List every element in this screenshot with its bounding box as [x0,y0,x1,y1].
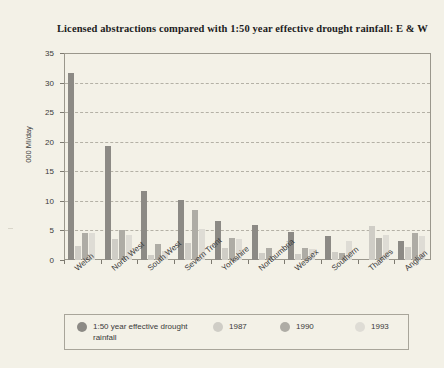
chart-legend: 1:50 year effective drought rainfall1987… [64,314,409,350]
x-axis-labels: WelshNorth WestSouth WestSevern TrentYor… [0,0,444,368]
x-axis-label: Thames [367,247,395,273]
legend-label: 1987 [229,322,247,333]
legend-item[interactable]: 1993 [355,322,405,333]
x-axis-label: Anglian [403,248,429,272]
x-axis-label: Wessex [293,247,320,272]
legend-item[interactable]: 1:50 year effective drought rainfall [77,322,197,343]
x-axis-label: Yorkshire [220,244,251,272]
legend-swatch-icon [213,322,223,332]
x-axis-label: Northumbria [257,237,296,273]
x-axis-label: Welsh [73,252,96,273]
chart-page: Licensed abstractions compared with 1:50… [0,0,444,368]
legend-swatch-icon [280,322,290,332]
x-axis-label: Severn Trent [183,236,223,273]
legend-item[interactable]: 1987 [213,322,273,333]
legend-item[interactable]: 1990 [280,322,340,333]
x-axis-label: North West [110,240,146,273]
x-axis-label: Southern [330,245,360,273]
legend-label: 1990 [296,322,314,333]
legend-label: 1993 [371,322,389,333]
legend-label: 1:50 year effective drought rainfall [93,322,197,343]
x-axis-label: South West [146,239,183,273]
legend-swatch-icon [77,322,87,332]
legend-swatch-icon [355,322,365,332]
